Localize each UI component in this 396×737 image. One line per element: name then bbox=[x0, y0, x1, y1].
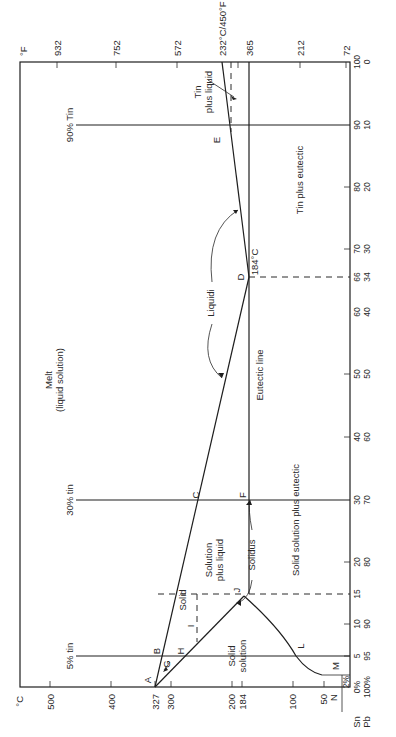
melt-label: Melt bbox=[43, 371, 54, 389]
composition-lines: 5% tin 30% tin 90% Tin bbox=[64, 108, 350, 675]
point-a: A bbox=[142, 676, 153, 683]
tick-500c: 500 bbox=[45, 694, 56, 710]
pb-axis-label: Pb bbox=[361, 716, 372, 728]
point-d: D bbox=[235, 273, 246, 280]
comp-80-pb: 20 bbox=[362, 182, 372, 192]
point-l: L bbox=[295, 643, 306, 648]
comp-20-sn: 20 bbox=[352, 557, 362, 567]
tick-72f: 72 bbox=[341, 45, 352, 56]
point-e: E bbox=[211, 137, 222, 143]
tick-327c: 327 bbox=[150, 694, 161, 710]
comp-10-pb: 90 bbox=[362, 619, 372, 629]
tick-212f: 212 bbox=[295, 40, 306, 56]
solid-label: Solid bbox=[177, 589, 188, 610]
five-percent-tin-label: 5% tin bbox=[64, 643, 75, 669]
solid-solution-eutectic-label: Solid solution plus eutectic bbox=[290, 464, 301, 576]
celsius-unit: °C bbox=[14, 696, 25, 707]
tick-200c: 200 bbox=[226, 694, 237, 710]
comp-5-sn: 5 bbox=[352, 653, 362, 658]
comp-60-sn: 60 bbox=[352, 307, 362, 317]
solidus-line bbox=[155, 596, 244, 687]
point-f: F bbox=[237, 492, 248, 498]
liquidus-sn-side bbox=[222, 62, 249, 277]
comp-30-sn: 30 bbox=[352, 495, 362, 505]
comp-100-sn: 100 bbox=[352, 55, 362, 69]
plus-liquid-label: plus liquid bbox=[214, 539, 225, 581]
comp-0-sn: 0% bbox=[352, 680, 362, 693]
point-h: H bbox=[175, 647, 186, 654]
point-j: J bbox=[231, 587, 242, 592]
comp-0-pb: 100% bbox=[362, 676, 372, 698]
solution-label: Solution bbox=[203, 543, 214, 577]
comp-5-pb: 95 bbox=[362, 651, 372, 661]
solid-solution-label: Solid bbox=[226, 645, 237, 666]
comp-70-sn: 70 bbox=[352, 244, 362, 254]
comp-60-pb: 40 bbox=[362, 307, 372, 317]
liquidi-arrow-upper bbox=[211, 210, 238, 282]
tick-400c: 400 bbox=[106, 694, 117, 710]
tin-plus-liquid-label: plus liquid bbox=[203, 71, 214, 113]
thirty-percent-tin-label: 30% tin bbox=[64, 484, 75, 516]
fahrenheit-axis: °F 932 752 572 232°C/450°F 365 212 72 bbox=[18, 1, 352, 68]
tick-100c: 100 bbox=[287, 694, 298, 710]
tick-365f: 365 bbox=[244, 40, 255, 56]
comp-50-pb: 50 bbox=[362, 369, 372, 379]
composition-axis: 0% 100% 5 95 10 90 15 20 80 30 70 40 60 … bbox=[344, 55, 372, 728]
comp-20-pb: 80 bbox=[362, 557, 372, 567]
point-i: I bbox=[185, 625, 196, 628]
point-c: C bbox=[190, 491, 201, 498]
comp-90-sn: 90 bbox=[352, 120, 362, 130]
tick-184c: 184 bbox=[237, 694, 248, 710]
tick-932f: 932 bbox=[52, 40, 63, 56]
point-n-label: N bbox=[328, 694, 339, 701]
ninety-percent-tin-label: 90% Tin bbox=[64, 108, 75, 142]
tin-label: Tin bbox=[192, 86, 203, 99]
comp-70-pb: 30 bbox=[362, 244, 372, 254]
comp-90-pb: 10 bbox=[362, 120, 372, 130]
leader-arrows bbox=[163, 80, 252, 672]
solid-solution-sub-label: solution bbox=[237, 640, 248, 673]
region-labels: Melt (liquid solution) Solid Solution pl… bbox=[43, 71, 305, 673]
comp-10-sn: 10 bbox=[352, 619, 362, 629]
comp-66-sn: 66 bbox=[352, 272, 362, 282]
comp-80-sn: 80 bbox=[352, 182, 362, 192]
tick-752f: 752 bbox=[111, 40, 122, 56]
fahrenheit-unit: °F bbox=[18, 46, 29, 56]
comp-50-sn: 50 bbox=[352, 369, 362, 379]
two-percent-label: 2% bbox=[341, 675, 351, 688]
liquidi-arrow-lower bbox=[208, 324, 222, 378]
eutectic-line-label: Eutectic line bbox=[254, 349, 265, 400]
comp-30-pb: 70 bbox=[362, 495, 372, 505]
celsius-axis: °C 500 400 327 300 200 184 100 50 N bbox=[14, 675, 342, 712]
comp-40-sn: 40 bbox=[352, 432, 362, 442]
eutectic-temp-label: 184°C bbox=[249, 249, 260, 276]
liquidi-label: Liquidi bbox=[205, 289, 216, 316]
tick-232c-450f: 232°C/450°F bbox=[217, 1, 228, 56]
tin-eutectic-label: Tin plus eutectic bbox=[294, 146, 305, 215]
melt-sub-label: (liquid solution) bbox=[54, 348, 65, 412]
comp-40-pb: 60 bbox=[362, 432, 372, 442]
liquidus-pb-side bbox=[155, 277, 249, 687]
phase-diagram: °C 500 400 327 300 200 184 100 50 N °F 9… bbox=[0, 0, 396, 737]
point-b: B bbox=[151, 648, 162, 654]
solidus-label: Solidus bbox=[246, 539, 257, 570]
comp-100-pb: 0 bbox=[362, 59, 372, 64]
tick-300c: 300 bbox=[165, 694, 176, 710]
tick-572f: 572 bbox=[172, 40, 183, 56]
comp-15-sn: 15 bbox=[352, 589, 362, 599]
point-m: M bbox=[330, 662, 341, 670]
comp-66-pb: 34 bbox=[362, 272, 372, 282]
solvus-curve bbox=[244, 596, 322, 675]
